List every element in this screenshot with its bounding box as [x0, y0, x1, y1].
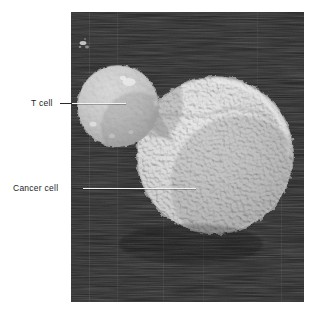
cancer-cell-label: Cancer cell: [13, 183, 58, 193]
micrograph-canvas: [71, 12, 304, 302]
cancer-cell-leader-line: [83, 188, 196, 189]
figure-root: T cell Cancer cell: [0, 0, 318, 313]
plate-grain: [71, 12, 304, 302]
t-cell-leader-line: [72, 103, 126, 104]
t-cell-leader-stub: [60, 103, 72, 104]
micrograph-image: [71, 12, 304, 302]
cancer-cell-leader-stub: [72, 188, 83, 189]
t-cell-label: T cell: [31, 98, 53, 108]
